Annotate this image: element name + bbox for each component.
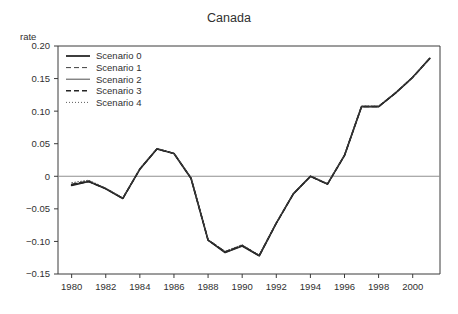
- legend-label-0: Scenario 0: [96, 50, 141, 61]
- x-tick-label: 1992: [266, 281, 287, 292]
- y-tick-label: −0.15: [26, 268, 50, 279]
- x-tick-label: 1980: [61, 281, 82, 292]
- x-tick-label: 1998: [368, 281, 389, 292]
- x-tick-label: 1990: [232, 281, 253, 292]
- chart-background: [0, 0, 458, 314]
- y-tick-label: 0.20: [32, 40, 51, 51]
- y-tick-label: 0.10: [32, 106, 51, 117]
- x-tick-label: 1988: [198, 281, 219, 292]
- legend-label-4: Scenario 4: [96, 97, 141, 108]
- x-tick-label: 1984: [129, 281, 150, 292]
- legend-label-3: Scenario 3: [96, 85, 141, 96]
- x-tick-label: 1996: [334, 281, 355, 292]
- line-chart: Canada rate −0.15−0.10−0.0500.050.100.15…: [0, 0, 458, 314]
- y-tick-label: −0.05: [26, 203, 50, 214]
- y-tick-label: 0: [45, 171, 50, 182]
- legend-label-1: Scenario 1: [96, 62, 141, 73]
- chart-figure: Canada rate −0.15−0.10−0.0500.050.100.15…: [0, 0, 458, 314]
- y-tick-label: −0.10: [26, 236, 50, 247]
- x-tick-label: 1986: [163, 281, 184, 292]
- chart-title: Canada: [207, 11, 251, 25]
- x-tick-label: 1982: [95, 281, 116, 292]
- x-tick-label: 2000: [402, 281, 423, 292]
- y-tick-label: 0.05: [32, 138, 51, 149]
- y-tick-label: 0.15: [32, 73, 51, 84]
- x-tick-label: 1994: [300, 281, 321, 292]
- x-axis-tick-labels: 1980198219841986198819901992199419961998…: [61, 281, 423, 292]
- legend-label-2: Scenario 2: [96, 74, 141, 85]
